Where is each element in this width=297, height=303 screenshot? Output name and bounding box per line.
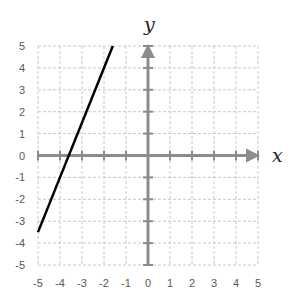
x-tick-label: 0	[145, 277, 151, 289]
x-axis-label: x	[272, 144, 283, 166]
x-tick-label: 1	[167, 277, 173, 289]
y-tick-label: 4	[19, 62, 25, 74]
series	[38, 46, 113, 232]
y-tick-label: -1	[15, 171, 25, 183]
x-tick-label: -5	[33, 277, 43, 289]
x-tick-label: 4	[233, 277, 239, 289]
x-tick-label: 2	[189, 277, 195, 289]
y-tick-label: 3	[19, 84, 25, 96]
x-tick-label: 5	[255, 277, 261, 289]
y-tick-label: -2	[15, 193, 25, 205]
y-tick-label: 5	[19, 40, 25, 52]
tick-labels: -5-4-3-2-1012345-5-4-3-2-1012345	[15, 40, 261, 289]
x-tick-label: -3	[77, 277, 87, 289]
y-tick-label: -4	[15, 237, 25, 249]
x-tick-label: -1	[121, 277, 131, 289]
y-tick-label: -3	[15, 215, 25, 227]
y-tick-label: 0	[19, 150, 25, 162]
x-tick-label: -4	[55, 277, 65, 289]
y-axis-label: y	[143, 13, 155, 35]
chart: -5-4-3-2-1012345-5-4-3-2-1012345 x y	[0, 0, 297, 303]
x-tick-label: 3	[211, 277, 217, 289]
series-line	[38, 46, 113, 232]
x-tick-label: -2	[99, 277, 109, 289]
y-tick-label: 2	[19, 106, 25, 118]
y-tick-label: 1	[19, 128, 25, 140]
y-tick-label: -5	[15, 259, 25, 271]
axes	[38, 44, 260, 265]
